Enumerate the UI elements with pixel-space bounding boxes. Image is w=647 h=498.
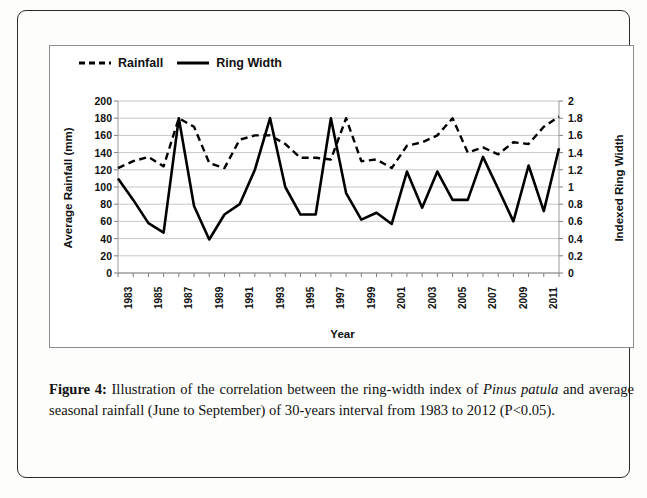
y-left-tick-label: 140 (74, 147, 112, 159)
y-axis-left-title: Average Rainfall (mm) (62, 128, 74, 249)
x-tick-label: 2011 (548, 287, 559, 309)
caption-text-before: Illustration of the correlation between … (107, 381, 483, 397)
y-right-tick-label: 2 (568, 95, 574, 107)
y-left-tick-label: 20 (74, 250, 112, 262)
x-tick-label: 1989 (214, 287, 225, 309)
x-tick-label: 2003 (427, 287, 438, 309)
y-left-tick-label: 60 (74, 215, 112, 227)
y-left-tick-label: 180 (74, 112, 112, 124)
y-right-tick-label: 0 (568, 267, 574, 279)
x-tick-label: 2005 (457, 287, 468, 309)
y-right-tick-label: 1 (568, 181, 574, 193)
y-right-tick-label: 1.6 (568, 129, 583, 141)
figure-label: Figure 4: (49, 381, 107, 397)
y-left-tick-label: 0 (74, 267, 112, 279)
y-right-tick-label: 0.2 (568, 250, 583, 262)
y-left-tick-label: 40 (74, 233, 112, 245)
x-tick-label: 1987 (183, 287, 194, 309)
x-tick-label: 1993 (275, 287, 286, 309)
plot-area: 020406080100120140160180200 00.20.40.60.… (50, 46, 635, 349)
x-tick-label: 1995 (305, 287, 316, 309)
x-tick-label: 2009 (518, 287, 529, 309)
y-right-tick-label: 0.6 (568, 215, 583, 227)
y-left-tick-label: 120 (74, 164, 112, 176)
y-right-tick-label: 1.2 (568, 164, 583, 176)
gridlines (118, 101, 559, 273)
x-tick-label: 1985 (153, 287, 164, 309)
x-tick-label: 1983 (123, 287, 134, 309)
figure-page: Rainfall Ring Width 02040608010 (0, 0, 647, 498)
y-right-tick-label: 1.8 (568, 112, 583, 124)
y-left-tick-label: 160 (74, 129, 112, 141)
y-right-tick-label: 0.8 (568, 198, 583, 210)
x-tick-label: 1999 (366, 287, 377, 309)
y-axis-right-title: Indexed Ring Width (613, 134, 625, 241)
y-left-tick-label: 80 (74, 198, 112, 210)
x-tick-label: 2001 (396, 287, 407, 309)
x-tick-label: 1997 (335, 287, 346, 309)
figure-outer-frame: Rainfall Ring Width 02040608010 (17, 10, 630, 478)
x-tick-label: 2007 (487, 287, 498, 309)
y-left-tick-label: 100 (74, 181, 112, 193)
x-tick-label: 1991 (244, 287, 255, 309)
x-axis-title: Year (50, 328, 635, 340)
y-right-tick-label: 1.4 (568, 147, 583, 159)
figure-caption: Figure 4: Illustration of the correlatio… (49, 379, 634, 421)
caption-species-name: Pinus patula (483, 381, 558, 397)
y-left-tick-label: 200 (74, 95, 112, 107)
chart-panel: Rainfall Ring Width 02040608010 (49, 45, 634, 348)
y-right-tick-label: 0.4 (568, 233, 583, 245)
